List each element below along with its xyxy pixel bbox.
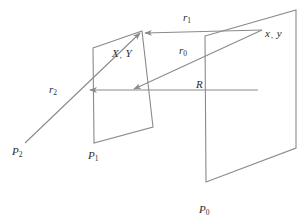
vector-R-label-base: R <box>196 78 203 90</box>
vector-R-label: R <box>196 79 203 90</box>
plane-p0-label-base: P <box>199 203 206 215</box>
point-label-XY: X, Y <box>112 48 132 59</box>
vector-r0-label-sub: 0 <box>183 49 187 58</box>
plane-p0-label: P0 <box>199 204 209 215</box>
vector-r1-label: r1 <box>183 12 191 23</box>
plane-p1-label-sub: 1 <box>95 154 99 163</box>
vector-r2-label-sub: 2 <box>53 88 57 97</box>
vector-r2-label: r2 <box>49 84 57 95</box>
point-label-XY-first: X <box>112 47 119 59</box>
figure-canvas: r1 r0 r2 R X, Y x, y P2 P1 P0 <box>0 0 304 218</box>
point-label-xy-comma: , <box>270 31 274 40</box>
vector-r1-line <box>145 30 262 33</box>
plane-p1-label-base: P <box>88 149 95 161</box>
diagram-svg <box>0 0 304 218</box>
point-label-XY-comma: , <box>119 51 123 60</box>
point-label-xy: x, y <box>265 28 282 39</box>
vector-r1-label-sub: 1 <box>187 16 191 25</box>
point-label-XY-second: Y <box>125 47 131 59</box>
plane-p1-label: P1 <box>88 150 98 161</box>
plane-p0-label-sub: 0 <box>206 208 210 217</box>
point-label-P2: P2 <box>12 146 22 157</box>
point-label-P2-sub: 2 <box>19 150 23 159</box>
point-label-xy-second: y <box>277 27 282 39</box>
vector-r0-label: r0 <box>179 45 187 56</box>
point-label-P2-base: P <box>12 145 19 157</box>
